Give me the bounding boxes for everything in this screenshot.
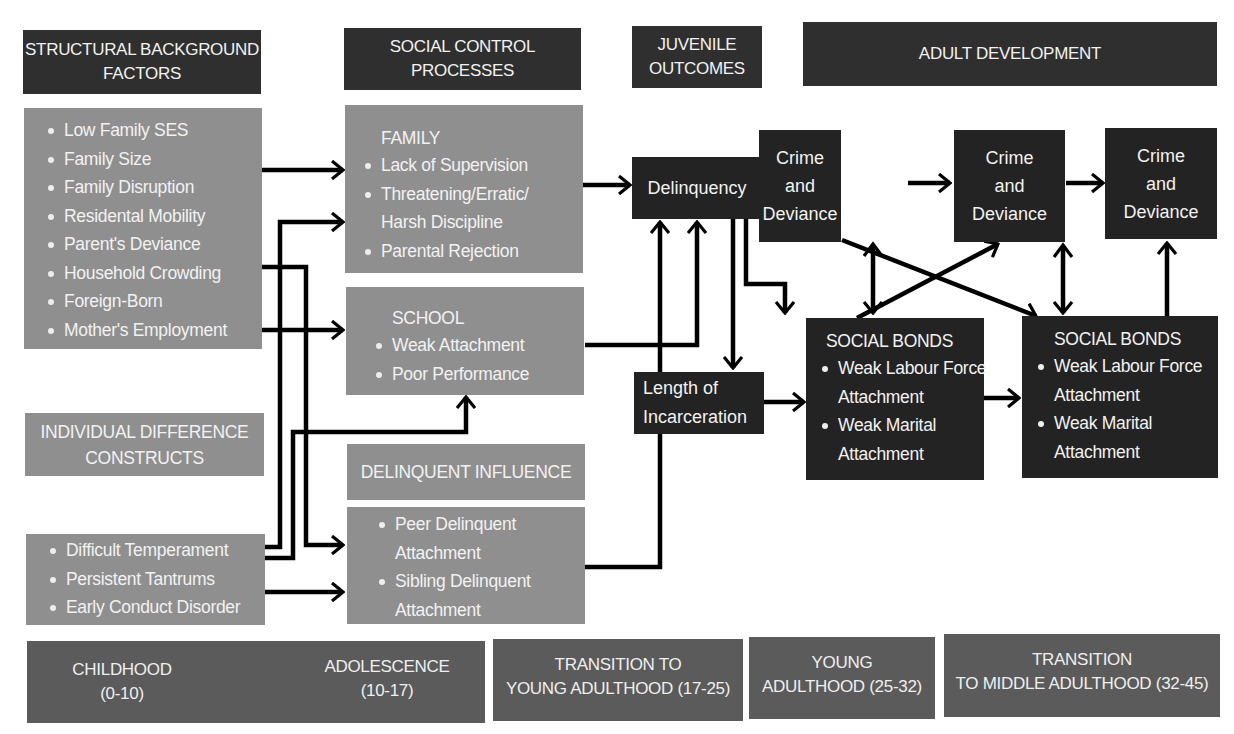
family-title: FAMILY: [363, 125, 583, 151]
crime-line: Crime: [986, 144, 1034, 172]
timeline-line: (10-17): [317, 679, 457, 703]
list-item: Parent's Deviance: [46, 230, 262, 259]
list-item: Mother's Employment: [46, 316, 262, 345]
incarceration-line: Incarceration: [643, 403, 764, 432]
list-item: Peer Delinquent Attachment: [377, 510, 545, 567]
school-title: SCHOOL: [374, 305, 584, 331]
family-box: FAMILY Lack of Supervision Threatening/E…: [345, 105, 583, 273]
individual-difference-title-box: INDIVIDUAL DIFFERENCE CONSTRUCTS: [25, 413, 264, 476]
timeline-line: (0-10): [47, 682, 197, 706]
timeline-transition-middle-label: TRANSITION TO MIDDLE ADULTHOOD (32-45): [944, 648, 1220, 696]
list-item: Early Conduct Disorder: [48, 593, 265, 622]
crime-deviance-box-2: Crime and Deviance: [954, 130, 1065, 242]
timeline-line: ADOLESCENCE: [317, 655, 457, 679]
individual-difference-box: Difficult Temperament Persistent Tantrum…: [26, 534, 265, 625]
timeline-adolescence: ADOLESCENCE (10-17): [317, 655, 457, 703]
timeline-young-adulthood-label: YOUNG ADULTHOOD (25-32): [749, 651, 935, 699]
social-bonds-box-2: SOCIAL BONDS Weak Labour Force Attachmen…: [1022, 316, 1218, 478]
list-item: Weak Labour Force Attachment: [820, 354, 998, 411]
list-item: Sibling Delinquent Attachment: [377, 567, 545, 624]
header-line: FACTORS: [103, 62, 181, 86]
list-item: Persistent Tantrums: [48, 565, 265, 594]
list-item: Threatening/Erratic/ Harsh Discipline: [363, 180, 551, 237]
crime-line: Crime: [776, 144, 824, 172]
list-item: Weak Attachment: [374, 331, 584, 360]
timeline-line: CHILDHOOD: [47, 658, 197, 682]
crime-deviance-box-1: Crime and Deviance: [759, 130, 841, 242]
incarceration-line: Length of: [643, 374, 764, 403]
header-line: STRUCTURAL BACKGROUND: [25, 38, 259, 62]
timeline-transition-young-label: TRANSITION TO YOUNG ADULTHOOD (17-25): [493, 653, 743, 701]
list-item: Foreign-Born: [46, 287, 262, 316]
box-title: DELINQUENT INFLUENCE: [361, 459, 572, 485]
social-bonds-list: Weak Labour Force Attachment Weak Marita…: [820, 354, 984, 468]
crime-line: and: [994, 172, 1024, 200]
header-line: JUVENILE: [658, 33, 737, 57]
individual-difference-list: Difficult Temperament Persistent Tantrum…: [48, 536, 265, 622]
list-item: Lack of Supervision: [363, 151, 583, 180]
list-item: Parental Rejection: [363, 237, 583, 266]
crime-line: Deviance: [1123, 198, 1198, 226]
header-structural-background: STRUCTURAL BACKGROUND FACTORS: [23, 30, 261, 94]
list-item: Weak Labour Force Attachment: [1036, 352, 1214, 409]
header-line: ADULT DEVELOPMENT: [919, 42, 1101, 66]
timeline-childhood-adolescence: CHILDHOOD (0-10) ADOLESCENCE (10-17): [27, 641, 485, 723]
timeline-line: TRANSITION: [944, 648, 1220, 672]
crime-line: and: [1146, 170, 1176, 198]
crime-line: Deviance: [972, 200, 1047, 228]
timeline-line: TRANSITION TO: [493, 653, 743, 677]
list-item: Poor Performance: [374, 360, 584, 389]
list-item: Difficult Temperament: [48, 536, 265, 565]
timeline-transition-young: TRANSITION TO YOUNG ADULTHOOD (17-25): [493, 639, 743, 721]
header-juvenile-outcomes: JUVENILE OUTCOMES: [632, 26, 762, 88]
social-bonds-box-1: SOCIAL BONDS Weak Labour Force Attachmen…: [806, 318, 984, 480]
list-item: Family Size: [46, 145, 262, 174]
list-item: Low Family SES: [46, 116, 262, 145]
delinquency-label: Delinquency: [647, 174, 746, 202]
box-title-line: CONSTRUCTS: [85, 445, 204, 471]
box-title-line: INDIVIDUAL DIFFERENCE: [41, 419, 249, 445]
timeline-young-adulthood: YOUNG ADULTHOOD (25-32): [749, 637, 935, 719]
social-bonds-list: Weak Labour Force Attachment Weak Marita…: [1054, 352, 1218, 466]
social-bonds-title: SOCIAL BONDS: [1054, 326, 1218, 352]
delinquent-influence-box: Peer Delinquent Attachment Sibling Delin…: [347, 507, 585, 624]
timeline-line: ADULTHOOD (25-32): [749, 675, 935, 699]
list-item: Family Disruption: [46, 173, 262, 202]
incarceration-box: Length of Incarceration: [634, 372, 764, 434]
timeline-line: YOUNG: [749, 651, 935, 675]
delinquent-influence-list: Peer Delinquent Attachment Sibling Delin…: [377, 510, 585, 624]
header-line: SOCIAL CONTROL: [390, 35, 535, 59]
header-social-control: SOCIAL CONTROL PROCESSES: [344, 28, 581, 90]
header-line: PROCESSES: [411, 59, 514, 83]
header-line: OUTCOMES: [649, 57, 745, 81]
school-list: Weak Attachment Poor Performance: [374, 331, 584, 388]
header-adult-development: ADULT DEVELOPMENT: [803, 22, 1217, 86]
crime-line: Deviance: [762, 200, 837, 228]
list-item: Weak Marital Attachment: [1036, 409, 1194, 466]
structural-factors-box: Low Family SES Family Size Family Disrup…: [24, 108, 262, 349]
timeline-line: TO MIDDLE ADULTHOOD (32-45): [944, 672, 1220, 696]
list-item: Household Crowding: [46, 259, 262, 288]
school-box: SCHOOL Weak Attachment Poor Performance: [346, 287, 584, 395]
timeline-line: YOUNG ADULTHOOD (17-25): [493, 677, 743, 701]
crime-deviance-box-3: Crime and Deviance: [1105, 128, 1217, 239]
timeline-transition-middle: TRANSITION TO MIDDLE ADULTHOOD (32-45): [944, 634, 1220, 717]
social-bonds-title: SOCIAL BONDS: [820, 328, 984, 354]
crime-line: Crime: [1137, 142, 1185, 170]
timeline-childhood: CHILDHOOD (0-10): [47, 658, 197, 706]
family-list: Lack of Supervision Threatening/Erratic/…: [363, 151, 583, 265]
list-item: Weak Marital Attachment: [820, 411, 978, 468]
delinquency-box: Delinquency: [632, 157, 762, 219]
crime-line: and: [785, 172, 815, 200]
structural-factors-list: Low Family SES Family Size Family Disrup…: [46, 116, 262, 344]
list-item: Residental Mobility: [46, 202, 262, 231]
delinquent-influence-title-box: DELINQUENT INFLUENCE: [347, 444, 585, 500]
